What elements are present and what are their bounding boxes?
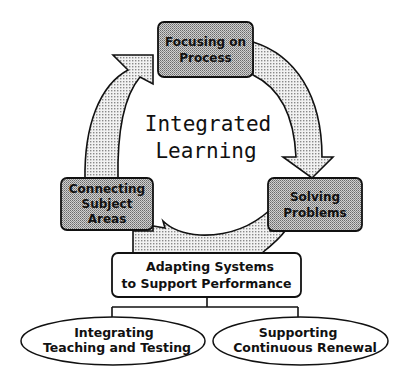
connector-tree (112, 297, 298, 318)
ellipse-label-line2: Teaching and Testing (43, 340, 191, 355)
ellipse-integrating-teaching-testing: Integrating Teaching and Testing (21, 317, 205, 365)
center-label-line2: Learning (155, 139, 256, 163)
ellipse-supporting-continuous-renewal: Supporting Continuous Renewal (213, 317, 388, 365)
box-label-line1: Solving (290, 190, 340, 204)
box-label-line2: Problems (283, 206, 346, 220)
ellipse-label-line1: Supporting (259, 325, 338, 340)
box-label-line2: Process (179, 51, 232, 65)
box-connecting-subject-areas: Connecting Subject Areas (61, 178, 153, 230)
center-label: Integrated Learning (145, 112, 271, 163)
support-label-line2: to Support Performance (121, 276, 291, 291)
support-label-line1: Adapting Systems (146, 259, 274, 274)
cycle-arrow-right (253, 42, 333, 178)
center-label-line1: Integrated (145, 112, 271, 136)
box-label-line2: Subject (82, 197, 133, 211)
ellipse-label-line1: Integrating (74, 325, 154, 340)
box-adapting-systems: Adapting Systems to Support Performance (112, 253, 301, 297)
integrated-learning-diagram: Focusing on Process Solving Problems Con… (0, 0, 406, 383)
box-label-line1: Focusing on (165, 35, 246, 49)
ellipse-label-line2: Continuous Renewal (233, 340, 377, 355)
box-solving-problems: Solving Problems (268, 178, 362, 231)
cycle-arrow-left (85, 55, 153, 180)
box-focusing-on-process: Focusing on Process (158, 22, 253, 77)
cycle-arrow-bottom (133, 210, 285, 253)
box-label-line1: Connecting (69, 182, 145, 196)
box-label-line3: Areas (88, 212, 127, 226)
